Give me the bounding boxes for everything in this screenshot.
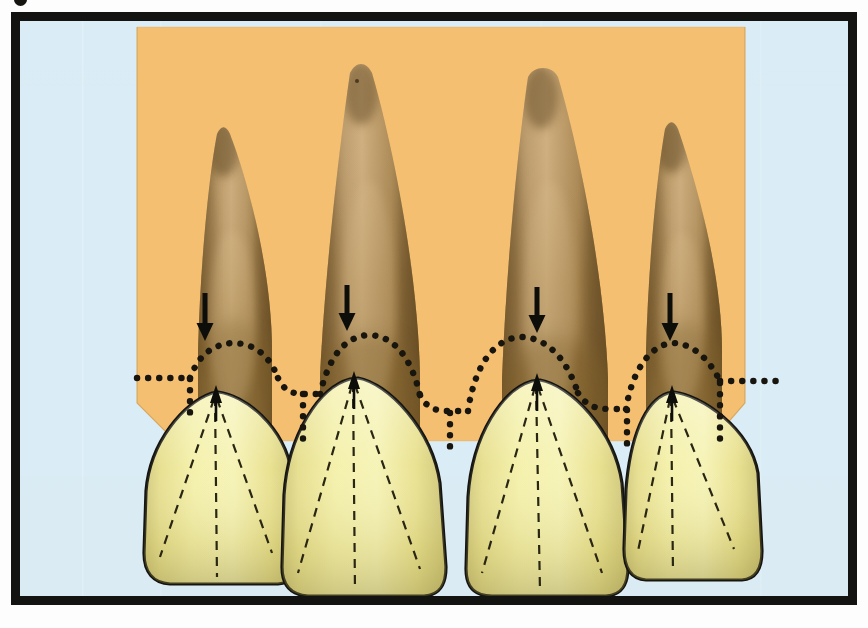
figure-plate <box>20 21 848 596</box>
screenshot-root <box>0 0 868 628</box>
tooth-anatomy-illustration <box>20 21 848 596</box>
cropped-caption-glyph <box>14 0 27 6</box>
figure-frame <box>11 12 857 605</box>
